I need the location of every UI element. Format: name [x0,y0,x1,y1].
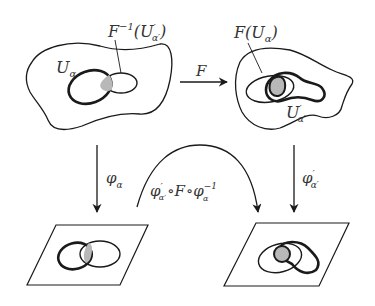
manifold-m-outline [26,43,171,129]
chart-plane-left [27,225,148,285]
f-inverse-label: F−1(U′α′) [107,21,166,43]
f-arrow-label: F [195,62,207,80]
f-image-label: F(Uα) [233,23,278,44]
chart-plane-right [224,223,349,286]
phi-prime-label: φ′α′ [302,168,319,190]
manifold-m [26,40,171,129]
u-prime-label: U′α′ [286,103,306,124]
u-alpha-label: Uα [56,58,76,79]
f-image-pointer [248,43,262,73]
transition-map-arrow [137,145,258,212]
intersection-shade-left [100,75,112,91]
f-inverse-pointer [115,40,121,73]
intersection-shade-right [270,77,286,96]
intersection-shade-bottom-right [274,246,290,262]
transition-map-label: φ′α′∘F∘φ−1α [150,181,217,203]
phi-alpha-label: φα [106,169,123,190]
coordinate-chart-diagram: F−1(U′α′) Uα F F(Uα) U′α′ φα φ′α′ φ′α′∘F… [0,0,375,306]
